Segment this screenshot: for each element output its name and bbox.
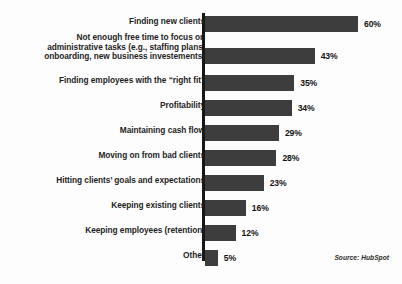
bar-track: 28% (205, 150, 402, 166)
category-label: Not enough free time to focus on adminis… (9, 33, 205, 62)
bar-track: 16% (205, 200, 402, 216)
bar-track: 29% (205, 125, 402, 141)
category-label: Other (9, 251, 205, 261)
chart-row: Finding employees with the “right fit” 3… (0, 72, 402, 97)
category-label: Maintaining cash flow (9, 126, 205, 136)
horizontal-bar-chart: Finding new clients 60% Not enough free … (0, 0, 402, 284)
bar-fill (205, 125, 279, 141)
bar-track: 34% (205, 100, 402, 116)
category-label: Finding employees with the “right fit” (9, 76, 205, 86)
chart-row: Profitability 34% (0, 97, 402, 122)
bar-fill (205, 100, 292, 116)
bar-value-label: 34% (298, 103, 315, 113)
category-label: Finding new clients (9, 17, 205, 27)
chart-row: Keeping existing clients 16% (0, 197, 402, 222)
bar-value-label: 12% (242, 228, 259, 238)
category-label: Keeping existing clients (9, 201, 205, 211)
chart-row: Keeping employees (retention) 12% (0, 222, 402, 247)
bar-fill (205, 48, 315, 64)
chart-row: Maintaining cash flow 29% (0, 122, 402, 147)
bar-fill (205, 175, 264, 191)
bar-value-label: 16% (252, 203, 269, 213)
bar-value-label: 43% (321, 51, 338, 61)
bar-fill (205, 250, 218, 266)
chart-rows-container: Finding new clients 60% Not enough free … (0, 13, 402, 272)
chart-row: Moving on from bad clients 28% (0, 147, 402, 172)
source-attribution: Source: HubSpot (334, 254, 389, 261)
bar-track: 60% (205, 16, 402, 32)
bar-value-label: 28% (282, 153, 299, 163)
category-label: Keeping employees (retention) (9, 226, 205, 236)
bar-fill (205, 16, 358, 32)
chart-row: Hitting clients’ goals and expectations … (0, 172, 402, 197)
bar-value-label: 5% (224, 253, 236, 263)
bar-value-label: 35% (300, 78, 317, 88)
bar-track: 43% (205, 48, 402, 64)
bar-track: 12% (205, 225, 402, 241)
bar-track: 35% (205, 75, 402, 91)
bar-fill (205, 75, 294, 91)
category-label: Hitting clients’ goals and expectations (9, 176, 205, 186)
bar-track: 23% (205, 175, 402, 191)
bar-fill (205, 225, 236, 241)
category-label: Moving on from bad clients (9, 151, 205, 161)
chart-row: Not enough free time to focus on adminis… (0, 38, 402, 72)
bar-fill (205, 150, 276, 166)
category-label: Profitability (9, 101, 205, 111)
bar-value-label: 23% (270, 178, 287, 188)
bar-value-label: 60% (364, 19, 381, 29)
bar-fill (205, 200, 246, 216)
bar-value-label: 29% (285, 128, 302, 138)
